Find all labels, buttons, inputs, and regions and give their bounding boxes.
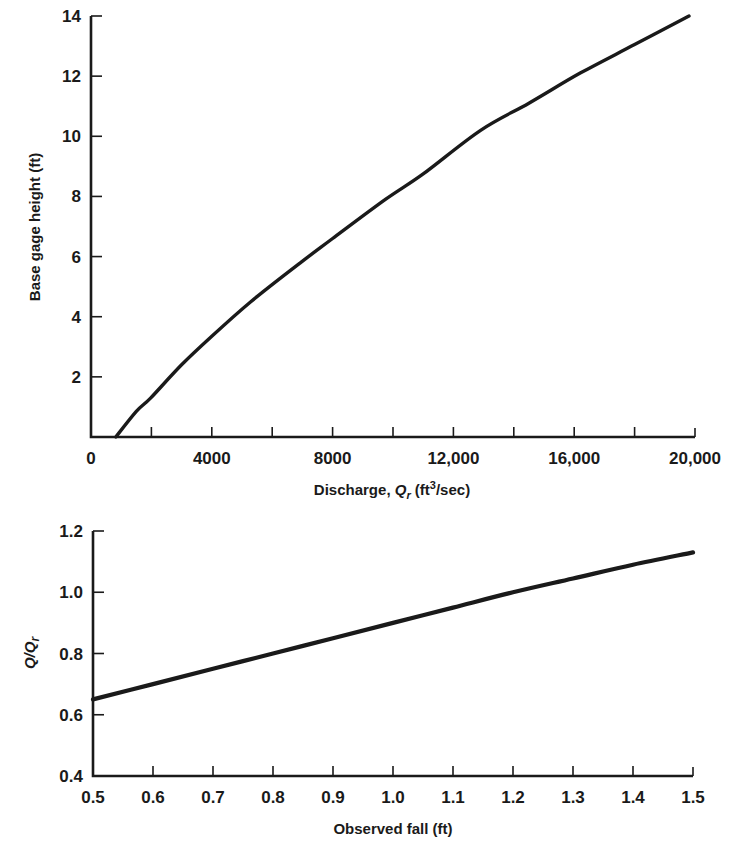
x-tick-label: 0.5 [81, 788, 105, 807]
y-tick-label: 14 [62, 7, 81, 26]
bot-axis-frame [93, 531, 693, 776]
top-x-axis-label: Discharge, Qr (ft3/sec) [314, 479, 470, 501]
x-tick-label: 0 [86, 449, 95, 468]
xlabel-unit-open: (ft [411, 481, 430, 498]
bottom-axes [93, 531, 693, 776]
rating-curve-chart: 246810121404000800012,00016,00020,000 Ba… [26, 7, 721, 501]
x-tick-label: 8000 [314, 449, 352, 468]
top-axis-frame [91, 16, 695, 437]
x-tick-label: 0.6 [141, 788, 165, 807]
y-tick-label: 12 [62, 67, 81, 86]
y-tick-label: 8 [72, 187, 81, 206]
y-tick-label: 0.8 [59, 645, 83, 664]
ylabel-sub: r [28, 636, 42, 642]
top-ticks: 246810121404000800012,00016,00020,000 [62, 7, 721, 468]
bottom-ticks: 0.40.60.81.01.20.50.60.70.80.91.01.11.21… [59, 522, 704, 807]
y-tick-label: 6 [72, 248, 81, 267]
series-line [116, 16, 689, 437]
figure: 246810121404000800012,00016,00020,000 Ba… [0, 0, 736, 864]
x-tick-label: 1.3 [561, 788, 585, 807]
x-tick-label: 4000 [193, 449, 231, 468]
x-tick-label: 16,000 [548, 449, 600, 468]
y-tick-label: 10 [62, 127, 81, 146]
xlabel-var: Q [395, 481, 407, 498]
x-tick-label: 1.5 [681, 788, 705, 807]
x-tick-label: 0.9 [321, 788, 345, 807]
y-tick-label: 0.6 [59, 706, 83, 725]
xlabel-unit-close: /sec) [436, 481, 470, 498]
y-tick-label: 1.0 [59, 583, 83, 602]
ylabel-main: Q/Q [21, 641, 38, 669]
y-tick-label: 2 [72, 368, 81, 387]
xlabel-prefix: Discharge, [314, 481, 395, 498]
y-tick-label: 4 [72, 308, 82, 327]
x-tick-label: 1.0 [381, 788, 405, 807]
x-tick-label: 1.1 [441, 788, 465, 807]
series-line [93, 552, 693, 699]
y-tick-label: 0.4 [59, 767, 83, 786]
y-tick-label: 1.2 [59, 522, 83, 541]
bottom-y-axis-label: Q/Qr [21, 636, 42, 670]
x-tick-label: 0.8 [261, 788, 285, 807]
x-tick-label: 12,000 [427, 449, 479, 468]
top-series [116, 16, 689, 437]
bottom-x-axis-label: Observed fall (ft) [333, 820, 452, 837]
fall-ratio-chart: 0.40.60.81.01.20.50.60.70.80.91.01.11.21… [21, 522, 705, 837]
bottom-series [93, 552, 693, 699]
x-tick-label: 1.4 [621, 788, 645, 807]
top-y-axis-label: Base gage height (ft) [26, 153, 43, 301]
x-tick-label: 1.2 [501, 788, 525, 807]
top-axes [91, 16, 695, 437]
x-tick-label: 20,000 [669, 449, 721, 468]
x-tick-label: 0.7 [201, 788, 225, 807]
